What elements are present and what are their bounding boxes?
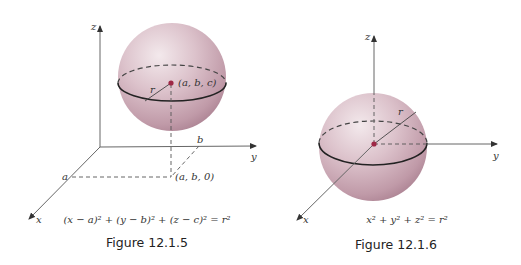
y-axis-label-2: y [492, 150, 499, 161]
figure-12-1-6: z y x r x² + y² + z² = r² Figure 12.1.6 [297, 31, 499, 252]
figure-12-1-5: z y x (a, b, c) (a, b, 0) a b r (x − a)²… [29, 21, 257, 250]
y-axis-1 [100, 146, 256, 147]
y-axis-label-1: y [250, 151, 257, 162]
a-mark-label: a [62, 171, 68, 182]
b-mark-label: b [197, 134, 203, 145]
z-axis-label-1: z [90, 21, 97, 32]
equation-1: (x − a)² + (y − b)² + (z − c)² = r² [63, 214, 230, 225]
projection-label: (a, b, 0) [175, 171, 214, 182]
sphere-2 [319, 93, 427, 201]
center-label: (a, b, c) [178, 77, 217, 88]
center-point-1 [168, 80, 173, 85]
x-axis-label-2: x [303, 214, 309, 225]
equation-2: x² + y² + z² = r² [366, 214, 448, 225]
caption-2: Figure 12.1.6 [355, 237, 437, 252]
caption-1: Figure 12.1.5 [106, 235, 188, 250]
center-point-2 [371, 141, 376, 146]
x-axis-label-1: x [36, 214, 42, 225]
x-axis-1 [29, 147, 100, 219]
z-axis-label-2: z [364, 31, 371, 42]
figures-canvas: z y x (a, b, c) (a, b, 0) a b r (x − a)²… [0, 0, 521, 265]
